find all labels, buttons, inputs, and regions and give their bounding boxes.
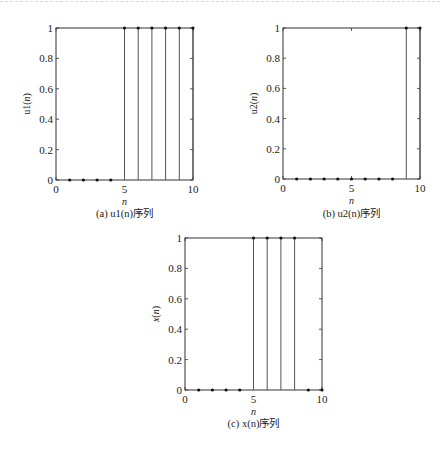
x-tick-label: 10 [317, 393, 329, 405]
y-tick-label: 0.2 [168, 354, 182, 366]
y-axis-label: x(n) [150, 306, 162, 323]
stem-marker [320, 388, 323, 391]
y-tick-label: 0.4 [168, 323, 182, 335]
stem-marker [279, 236, 282, 239]
stem-marker [197, 388, 200, 391]
x-tick-label: 0 [182, 393, 188, 405]
x-tick-label: 5 [251, 393, 257, 405]
stem-marker [225, 388, 228, 391]
stem-marker [307, 388, 310, 391]
stem-marker [211, 388, 214, 391]
stem-marker [238, 388, 241, 391]
plot-x: 00.20.40.60.810510nx(n) [0, 0, 440, 450]
y-tick-label: 0.6 [168, 293, 182, 305]
caption-x: (c) x(n)序列 [185, 415, 322, 430]
stem-marker [266, 236, 269, 239]
stem-marker [252, 236, 255, 239]
y-tick-label: 1 [177, 232, 183, 244]
stem-marker [293, 236, 296, 239]
y-tick-label: 0.8 [168, 262, 182, 274]
